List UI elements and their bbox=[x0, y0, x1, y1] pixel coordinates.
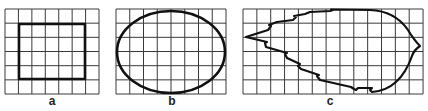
panel-c-leaf: c bbox=[243, 9, 423, 108]
panel-a-square: a bbox=[5, 9, 99, 108]
shape-comparison-diagram: a b c bbox=[0, 0, 428, 111]
panel-label-c: c bbox=[327, 94, 334, 108]
panel-label-a: a bbox=[49, 94, 56, 108]
panel-label-b: b bbox=[168, 94, 175, 108]
panel-b-ellipse: b bbox=[116, 9, 226, 108]
